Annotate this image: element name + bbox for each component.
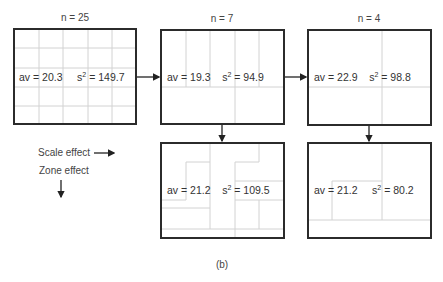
n-label-4: n = 4 [358, 13, 381, 24]
av-value: 19.3 [190, 71, 210, 83]
stats-n25: av = 20.3 s2 = 149.7 [19, 71, 125, 83]
legend-zone-effect: Zone effect [39, 165, 89, 176]
stats-n4-alternate: av = 21.2 s2 = 80.2 [314, 184, 414, 196]
variance-value: 94.9 [243, 71, 263, 83]
av-value: 22.9 [337, 71, 357, 83]
av-value: 20.3 [42, 71, 62, 83]
variance-value: 109.5 [243, 184, 269, 196]
variance-value: 149.7 [98, 71, 124, 83]
figure-caption: (b) [216, 259, 228, 270]
n-label-25: n = 25 [61, 12, 89, 23]
stats-n7-alternate: av = 21.2 s2 = 109.5 [167, 184, 270, 196]
variance-value: 80.2 [393, 184, 413, 196]
zoning-diagram [0, 0, 443, 282]
stats-n4: av = 22.9 s2 = 98.8 [314, 71, 411, 83]
stats-n7: av = 19.3 s2 = 94.9 [167, 71, 264, 83]
n-label-7: n = 7 [211, 13, 234, 24]
legend-scale-effect: Scale effect [38, 147, 90, 158]
variance-value: 98.8 [390, 71, 410, 83]
av-value: 21.2 [337, 184, 357, 196]
av-value: 21.2 [190, 184, 210, 196]
